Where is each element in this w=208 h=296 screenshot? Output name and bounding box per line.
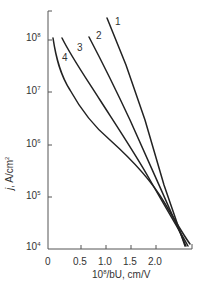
y-tick-label-1e5: 105	[26, 191, 40, 201]
y-tick-base: 10	[26, 241, 37, 252]
curve-3	[62, 38, 188, 246]
x-axis-label-base: 10	[92, 269, 103, 280]
curve-1	[107, 18, 185, 246]
y-tick-base: 10	[26, 32, 37, 43]
y-tick-exp: 5	[37, 190, 40, 196]
curve-label-2: 2	[96, 31, 102, 41]
y-tick-exp: 6	[37, 138, 40, 144]
x-axis-label: 108/bU, cm/V	[92, 270, 150, 280]
y-tick-label-1e4: 104	[26, 242, 40, 252]
curve-label-1: 1	[115, 17, 121, 27]
curve-label-4: 4	[62, 53, 68, 63]
x-tick-label-0.5: 0.5	[73, 257, 87, 267]
y-ticks	[48, 40, 52, 197]
x-axis-label-exp: 8	[103, 269, 106, 275]
y-tick-exp: 7	[37, 85, 40, 91]
y-tick-exp: 4	[37, 241, 40, 247]
y-tick-base: 10	[26, 190, 37, 201]
x-tick-label-1.5: 1.5	[123, 257, 137, 267]
y-tick-label-1e6: 106	[26, 139, 40, 149]
x-ticks	[81, 245, 156, 249]
x-tick-label-0: 0	[45, 257, 51, 267]
y-tick-exp: 8	[37, 32, 40, 38]
y-tick-label-1e7: 107	[26, 86, 40, 96]
x-tick-label-1.0: 1.0	[98, 257, 112, 267]
curve-label-3: 3	[77, 43, 83, 53]
y-axis-label: j, A/cm2	[4, 157, 15, 190]
x-tick-label-2.0: 2.0	[148, 257, 162, 267]
y-tick-label-1e8: 108	[26, 33, 40, 43]
y-axis-label-unit: , A/cm	[4, 160, 15, 188]
y-axis-label-symbol: j	[4, 188, 15, 190]
x-axis-label-rest: /bU, cm/V	[106, 269, 150, 280]
y-tick-base: 10	[26, 85, 37, 96]
y-axis-label-exp: 2	[4, 157, 10, 160]
y-tick-base: 10	[26, 138, 37, 149]
